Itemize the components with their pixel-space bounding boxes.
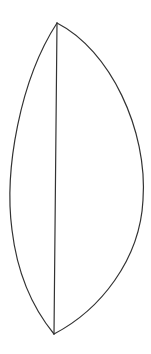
left-arc xyxy=(10,23,57,334)
lens-diagram xyxy=(0,0,151,354)
right-arc xyxy=(54,23,143,334)
chord-line xyxy=(54,23,57,334)
